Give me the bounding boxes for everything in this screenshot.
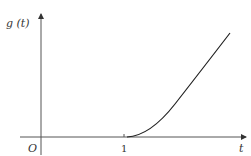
y-axis-label: g (t) bbox=[6, 17, 30, 30]
chart: g (t) t O 1 bbox=[0, 0, 251, 156]
curve-g-t bbox=[127, 33, 230, 137]
x-axis-label: t bbox=[239, 142, 244, 155]
origin-label: O bbox=[28, 142, 37, 155]
x-tick-label-1: 1 bbox=[121, 143, 127, 154]
